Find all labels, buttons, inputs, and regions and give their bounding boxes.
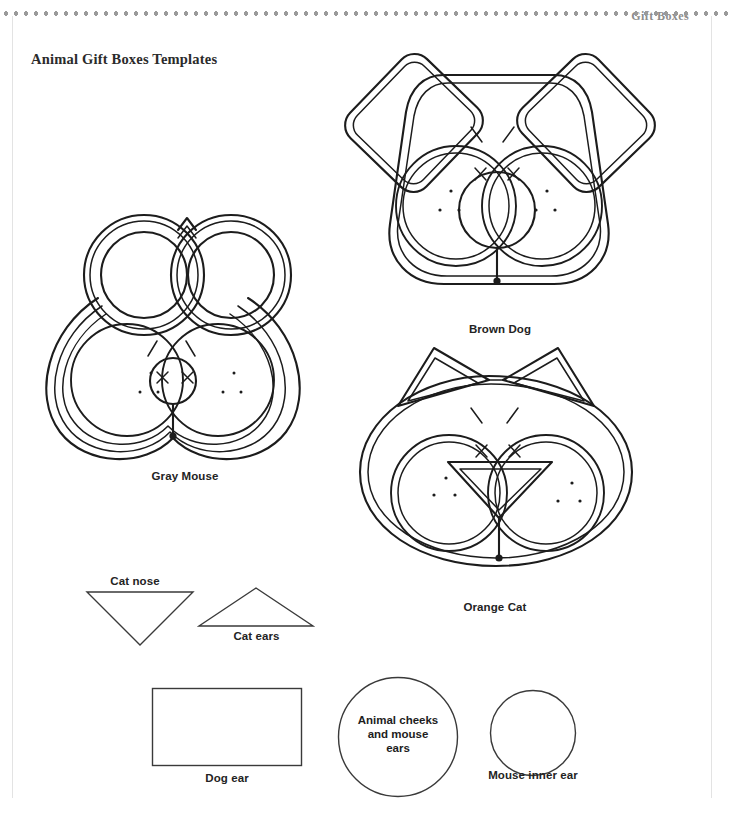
label-mouse-inner-ear: Mouse inner ear bbox=[473, 768, 593, 782]
template-dog-ear bbox=[151, 687, 303, 767]
figure-brown-dog bbox=[296, 28, 696, 318]
template-cat-ears bbox=[197, 585, 315, 629]
label-animal-cheeks: Animal cheeks and mouse ears bbox=[340, 713, 456, 755]
cat-head-outline bbox=[360, 348, 632, 566]
caption-orange-cat: Orange Cat bbox=[435, 601, 555, 613]
figure-gray-mouse bbox=[26, 170, 316, 470]
figure-orange-cat bbox=[336, 338, 656, 598]
dotted-rule-divider bbox=[0, 11, 734, 16]
label-cat-nose: Cat nose bbox=[55, 575, 215, 587]
label-dog-ear: Dog ear bbox=[152, 772, 302, 784]
template-sheet: Gift Boxes Animal Gift Boxes Templates bbox=[0, 0, 734, 824]
caption-gray-mouse: Gray Mouse bbox=[105, 470, 265, 482]
page-title: Animal Gift Boxes Templates bbox=[31, 51, 217, 68]
caption-brown-dog: Brown Dog bbox=[440, 323, 560, 335]
label-cat-ears: Cat ears bbox=[179, 630, 334, 642]
mouse-face-features bbox=[139, 341, 243, 440]
template-mouse-inner-ear bbox=[489, 689, 577, 777]
